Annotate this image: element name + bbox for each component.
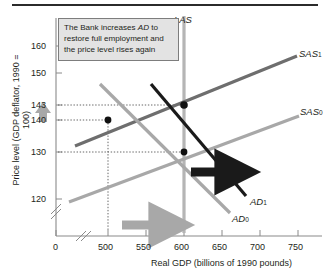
x-axis — [56, 231, 322, 241]
x-tick-650: 650 — [212, 242, 227, 252]
x-tick-700: 700 — [250, 242, 265, 252]
equilibrium-point-550-140 — [105, 117, 112, 124]
y-tick-140: 140 — [31, 115, 46, 125]
figure-container: 160 150 143 140 130 120 0 500 550 600 65… — [0, 0, 330, 280]
y-tick-130: 130 — [31, 147, 46, 157]
ad0-sub: 0 — [245, 216, 249, 223]
equilibrium-point-600-143 — [180, 101, 188, 109]
sas0-text: SAS — [300, 106, 319, 117]
y-tick-143: 143 — [31, 100, 46, 110]
x-tick-0: 0 — [53, 242, 58, 252]
curve-sas1 — [75, 56, 297, 146]
callout-box: The Bank increases AD to restore full em… — [58, 18, 179, 61]
sas1-sub: 1 — [318, 51, 322, 58]
x-tick-500: 500 — [98, 242, 113, 252]
ad1-text: AD — [250, 196, 263, 207]
curve-label-ad0: AD0 — [232, 213, 249, 224]
y-tick-120: 120 — [31, 194, 46, 204]
ad1-sub: 1 — [263, 199, 267, 206]
x-tick-750: 750 — [288, 242, 303, 252]
callout-part1: The Bank increases — [64, 23, 138, 32]
sas0-sub: 0 — [319, 109, 323, 116]
ad0-text: AD — [232, 213, 245, 224]
x-tick-550: 550 — [136, 242, 151, 252]
curve-label-sas0: SAS0 — [300, 106, 323, 117]
callout-emphasis: AD — [138, 23, 149, 32]
y-tick-160: 160 — [31, 41, 46, 51]
x-axis-ticks — [56, 230, 298, 236]
x-axis-label: Real GDP (billions of 1990 pounds) — [151, 258, 292, 268]
curve-label-ad1: AD1 — [250, 196, 267, 207]
y-axis-ticks — [56, 46, 62, 199]
sas1-text: SAS — [299, 48, 318, 59]
y-tick-150: 150 — [31, 68, 46, 78]
x-tick-600: 600 — [174, 242, 189, 252]
guide-lines — [58, 105, 184, 231]
equilibrium-point-600-130 — [181, 149, 188, 156]
y-axis-label: Price level (GDP deflator, 1990 = 100) — [11, 45, 31, 195]
curve-label-sas1: SAS1 — [299, 48, 322, 59]
